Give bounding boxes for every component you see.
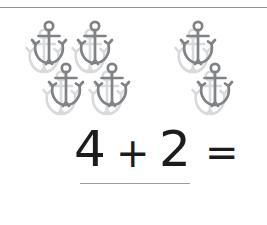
equation-operand-1: 4: [74, 124, 106, 174]
anchor-icon: [89, 62, 135, 114]
equation-plus-operator: +: [116, 133, 150, 173]
addition-worksheet: 4 + 2 =: [0, 0, 267, 225]
equation-row: 4 + 2 =: [0, 124, 267, 176]
top-divider-rule: [0, 7, 267, 8]
counting-objects-area: [0, 10, 267, 122]
anchor-icon: [43, 62, 89, 114]
equation-equals-operator: =: [205, 132, 239, 172]
anchor-icon: [192, 62, 238, 114]
equation-operand-2: 2: [159, 124, 191, 174]
answer-blank-line[interactable]: [80, 183, 190, 184]
